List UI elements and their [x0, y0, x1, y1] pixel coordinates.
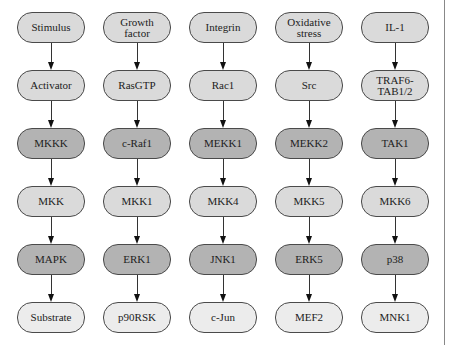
arrow-down-icon	[134, 294, 140, 302]
connector-line	[51, 159, 52, 180]
pathway-node: MEKK1	[189, 128, 257, 159]
connector-line	[309, 101, 310, 122]
node-label: Substrate	[31, 312, 72, 323]
pathway-node: c-Jun	[189, 302, 257, 333]
pathway-node: Integrin	[189, 12, 257, 43]
connector-line	[137, 159, 138, 180]
connector-line	[223, 159, 224, 180]
connector-line	[137, 101, 138, 122]
pathway-node: TRAF6- TAB1/2	[361, 70, 429, 101]
arrow-down-icon	[48, 178, 54, 186]
connector-line	[51, 43, 52, 64]
arrow-down-icon	[392, 120, 398, 128]
node-label: c-Raf1	[122, 138, 152, 149]
pathway-node: Oxidative stress	[275, 12, 343, 43]
arrow-down-icon	[306, 178, 312, 186]
arrow-down-icon	[220, 236, 226, 244]
pathway-node: Substrate	[17, 302, 85, 333]
node-label: MKKK	[34, 138, 68, 149]
connector-line	[395, 217, 396, 238]
node-label: Src	[302, 80, 317, 91]
node-label: Stimulus	[31, 22, 70, 33]
connector-line	[309, 275, 310, 296]
connector-line	[395, 275, 396, 296]
pathway-node: MKKK	[17, 128, 85, 159]
pathway-node: RasGTP	[103, 70, 171, 101]
pathway-node: ERK1	[103, 244, 171, 275]
pathway-node: MKK4	[189, 186, 257, 217]
node-label: p38	[387, 254, 404, 265]
arrow-down-icon	[306, 294, 312, 302]
node-label: MAPK	[35, 254, 67, 265]
pathway-node: MAPK	[17, 244, 85, 275]
connector-line	[51, 101, 52, 122]
pathway-node: Growth factor	[103, 12, 171, 43]
arrow-down-icon	[220, 120, 226, 128]
pathway-node: Rac1	[189, 70, 257, 101]
node-label: Integrin	[206, 22, 241, 33]
node-label: Oxidative stress	[287, 17, 330, 39]
node-label: MEKK1	[204, 138, 242, 149]
node-label: Growth factor	[120, 17, 154, 39]
node-label: MKK1	[121, 196, 152, 207]
node-label: Rac1	[212, 80, 235, 91]
arrow-down-icon	[306, 120, 312, 128]
connector-line	[395, 43, 396, 64]
pathway-node: MKK6	[361, 186, 429, 217]
connector-line	[395, 159, 396, 180]
connector-line	[223, 43, 224, 64]
node-label: MNK1	[379, 312, 410, 323]
pathway-node: MNK1	[361, 302, 429, 333]
arrow-down-icon	[134, 120, 140, 128]
arrow-down-icon	[48, 294, 54, 302]
pathway-node: ERK5	[275, 244, 343, 275]
pathway-node: MEKK2	[275, 128, 343, 159]
node-label: IL-1	[385, 22, 405, 33]
pathway-node: MKK	[17, 186, 85, 217]
arrow-down-icon	[392, 62, 398, 70]
connector-line	[51, 275, 52, 296]
connector-line	[309, 217, 310, 238]
pathway-node: Stimulus	[17, 12, 85, 43]
node-label: JNK1	[210, 254, 236, 265]
node-label: ERK1	[123, 254, 151, 265]
arrow-down-icon	[392, 236, 398, 244]
arrow-down-icon	[134, 236, 140, 244]
arrow-down-icon	[306, 236, 312, 244]
connector-line	[51, 217, 52, 238]
node-label: MKK	[38, 196, 64, 207]
arrow-down-icon	[48, 236, 54, 244]
connector-line	[137, 275, 138, 296]
node-label: c-Jun	[211, 312, 235, 323]
right-border-rule	[444, 0, 445, 345]
connector-line	[223, 217, 224, 238]
arrow-down-icon	[220, 178, 226, 186]
arrow-down-icon	[392, 294, 398, 302]
arrow-down-icon	[220, 294, 226, 302]
arrow-down-icon	[392, 178, 398, 186]
connector-line	[137, 43, 138, 64]
arrow-down-icon	[48, 62, 54, 70]
node-label: TRAF6- TAB1/2	[376, 75, 413, 97]
arrow-down-icon	[134, 178, 140, 186]
arrow-down-icon	[220, 62, 226, 70]
node-label: RasGTP	[118, 80, 155, 91]
arrow-down-icon	[306, 62, 312, 70]
connector-line	[137, 217, 138, 238]
connector-line	[309, 159, 310, 180]
connector-line	[223, 101, 224, 122]
node-label: p90RSK	[118, 312, 156, 323]
pathway-node: Activator	[17, 70, 85, 101]
node-label: ERK5	[295, 254, 323, 265]
pathway-node: TAK1	[361, 128, 429, 159]
pathway-node: c-Raf1	[103, 128, 171, 159]
mapk-cascade-diagram: StimulusActivatorMKKKMKKMAPKSubstrateGro…	[0, 0, 451, 349]
node-label: MEKK2	[290, 138, 328, 149]
node-label: MEF2	[295, 312, 323, 323]
connector-line	[223, 275, 224, 296]
pathway-node: IL-1	[361, 12, 429, 43]
arrow-down-icon	[48, 120, 54, 128]
pathway-node: MKK1	[103, 186, 171, 217]
node-label: TAK1	[381, 138, 408, 149]
node-label: Activator	[30, 80, 72, 91]
